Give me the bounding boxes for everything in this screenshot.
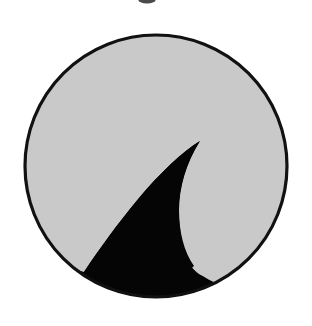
emblem-canvas: Shark Fin Emblem Monochrome circular emb… — [0, 0, 312, 326]
shark-fin-emblem-graphic — [0, 0, 312, 326]
